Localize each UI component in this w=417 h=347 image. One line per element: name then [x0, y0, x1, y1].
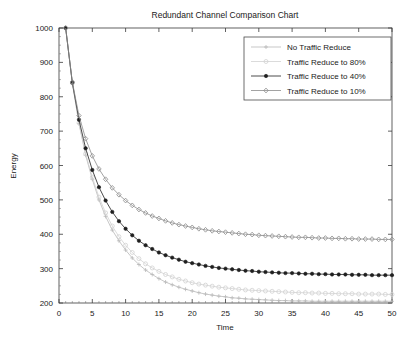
y-axis-label: Energy — [9, 153, 18, 178]
x-tick-label: 35 — [288, 309, 297, 318]
y-tick-label: 600 — [40, 162, 54, 171]
x-tick-label: 30 — [254, 309, 263, 318]
x-tick-label: 20 — [188, 309, 197, 318]
x-tick-label: 15 — [154, 309, 163, 318]
y-tick-label: 300 — [40, 265, 54, 274]
chart-legend: No Traffic ReduceTraffic Reduce to 80%Tr… — [244, 37, 391, 100]
x-axis-label: Time — [216, 323, 234, 332]
chart-figure: Redundant Channel Comparison Chart 20030… — [0, 0, 417, 347]
x-tick-label: 25 — [221, 309, 230, 318]
y-tick-label: 200 — [40, 299, 54, 308]
x-tick-label: 40 — [321, 309, 330, 318]
chart-title: Redundant Channel Comparison Chart — [152, 10, 300, 20]
x-tick-label: 5 — [90, 309, 95, 318]
legend-label: Traffic Reduce to 10% — [287, 87, 366, 96]
legend-label: Traffic Reduce to 40% — [287, 72, 366, 81]
y-tick-label: 800 — [40, 93, 54, 102]
x-tick-label: 50 — [388, 309, 397, 318]
legend-label: Traffic Reduce to 80% — [287, 58, 366, 67]
y-tick-label: 1000 — [35, 24, 53, 33]
legend-label: No Traffic Reduce — [287, 43, 351, 52]
y-tick-label: 900 — [40, 58, 54, 67]
x-tick-label: 45 — [354, 309, 363, 318]
x-tick-label: 0 — [57, 309, 62, 318]
redundant-channel-comparison-chart: Redundant Channel Comparison Chart 20030… — [0, 0, 417, 347]
x-tick-label: 10 — [121, 309, 130, 318]
y-tick-label: 700 — [40, 127, 54, 136]
y-tick-label: 400 — [40, 230, 54, 239]
y-tick-label: 500 — [40, 196, 54, 205]
